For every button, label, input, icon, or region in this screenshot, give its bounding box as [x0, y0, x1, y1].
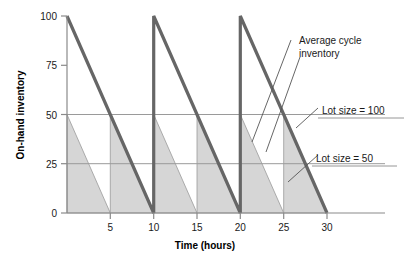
- annotation-lot-size-50: Lot size = 50: [316, 153, 373, 164]
- y-tick-label-50: 50: [46, 110, 58, 121]
- avg-cycle-inventory-line2: inventory: [299, 48, 340, 59]
- y-axis-title: On-hand inventory: [15, 70, 26, 159]
- chart-container: 100 75 50 25 0 5 10 15 20 25 30 Time (ho…: [0, 0, 412, 264]
- y-tick-label-0: 0: [51, 208, 57, 219]
- x-tick-label-15: 15: [191, 222, 203, 233]
- x-tick-label-5: 5: [108, 222, 114, 233]
- avg-cycle-inventory-line1: Average cycle: [299, 35, 362, 46]
- x-tick-label-10: 10: [148, 222, 160, 233]
- annotation-lot-size-100: Lot size = 100: [322, 105, 385, 116]
- y-tick-label-25: 25: [46, 159, 58, 170]
- x-tick-label-20: 20: [235, 222, 247, 233]
- y-tick-label-100: 100: [40, 11, 57, 22]
- x-tick-label-30: 30: [321, 222, 333, 233]
- y-tick-label-75: 75: [46, 60, 58, 71]
- x-tick-label-25: 25: [278, 222, 290, 233]
- inventory-sawtooth-chart: 100 75 50 25 0 5 10 15 20 25 30 Time (ho…: [0, 0, 412, 264]
- x-axis-title: Time (hours): [175, 240, 235, 251]
